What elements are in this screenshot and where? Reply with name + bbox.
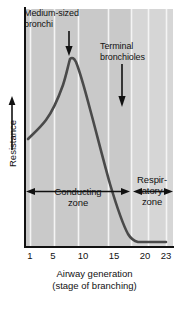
annotation-medium-sized-bronchi: Medium-sizedbronchi <box>24 8 79 29</box>
x-axis-caption-line2: (stage of branching) <box>52 280 137 291</box>
x-tick-label-5: 5 <box>45 250 61 261</box>
annotation-terminal-bronchioles: Terminalbronchioles <box>100 41 145 62</box>
annotation-medium-sized-bronchi-line1: Medium-sized <box>24 8 79 18</box>
zone-label-conducting-line1: Conducting <box>54 186 101 197</box>
zone-label-conducting-line2: zone <box>68 197 88 208</box>
chart-canvas <box>0 0 189 309</box>
zone-label-respiratory: Respir-atoryzone <box>131 174 173 207</box>
airway-resistance-figure: Medium-sizedbronchi Terminalbronchioles … <box>0 0 189 309</box>
zone-label-respiratory-line1: Respir- <box>137 174 167 185</box>
x-axis-caption-line1: Airway generation <box>56 268 132 279</box>
zone-label-respiratory-line2: atory <box>142 185 163 196</box>
x-tick-label-20: 20 <box>137 250 153 261</box>
y-axis-label: Resistance <box>7 109 18 179</box>
zone-label-respiratory-line3: zone <box>142 196 162 207</box>
annotation-medium-sized-bronchi-line2: bronchi <box>24 19 53 29</box>
x-tick-label-15: 15 <box>106 250 122 261</box>
x-axis-caption: Airway generation(stage of branching) <box>0 268 189 291</box>
annotation-terminal-bronchioles-line2: bronchioles <box>100 52 145 62</box>
annotation-terminal-bronchioles-line1: Terminal <box>100 41 133 51</box>
zone-label-conducting: Conductingzone <box>26 186 130 208</box>
x-tick-label-23: 23 <box>158 250 174 261</box>
x-tick-label-10: 10 <box>75 250 91 261</box>
x-tick-label-1: 1 <box>22 250 38 261</box>
